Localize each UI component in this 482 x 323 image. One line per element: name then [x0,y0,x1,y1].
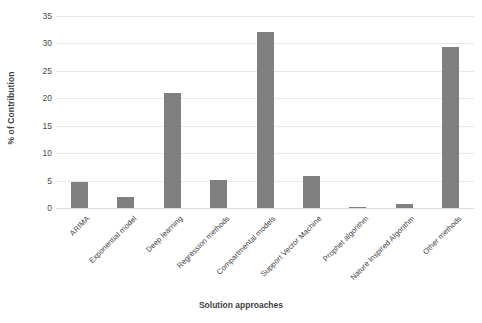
y-axis-tick-labels: 05101520253035 [22,16,52,208]
y-tick-label-20: 20 [26,94,52,103]
bar-chart-figure: % of Contribution 05101520253035 ARIMAEx… [0,0,482,323]
x-tick-label: ARIMA [68,214,92,238]
y-tick-label-15: 15 [26,121,52,130]
x-tick-label: Deep learning [144,214,184,254]
gridline-0 [56,208,474,209]
x-axis-title-text: Solution approaches [199,300,283,310]
bar [210,180,227,208]
bar [71,182,88,208]
y-tick-label-10: 10 [26,149,52,158]
x-tick-label: Prophet algorithm [321,214,370,263]
bar [164,93,181,208]
x-tick-label: Other methods [421,214,463,256]
bar [442,47,459,208]
y-tick-label-5: 5 [26,176,52,185]
bar [396,204,413,208]
bar [349,207,366,208]
y-tick-label-0: 0 [26,204,52,213]
bar [117,197,134,208]
x-tick-label: Exponential model [87,214,138,265]
y-tick-label-35: 35 [26,12,52,21]
bar [257,32,274,208]
y-axis-title: % of Contribution [0,0,20,215]
y-axis-title-text: % of Contribution [5,71,15,144]
x-axis-title: Solution approaches [0,300,482,310]
x-axis-tick-labels: ARIMAExponential modelDeep learningRegre… [56,210,474,296]
plot-area [56,16,474,208]
y-tick-label-25: 25 [26,67,52,76]
bar [303,176,320,208]
y-tick-label-30: 30 [26,39,52,48]
bars-group [56,16,474,208]
